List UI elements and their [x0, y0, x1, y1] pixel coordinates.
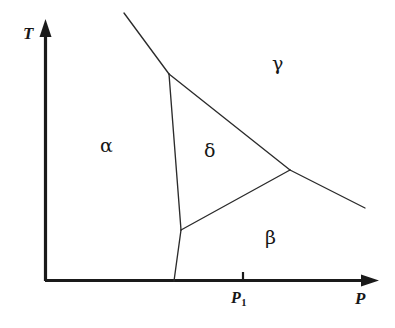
- temperature-axis-arrowhead: [40, 19, 52, 37]
- temperature-axis-label: T: [23, 25, 33, 42]
- pressure-axis-label: P: [355, 290, 365, 307]
- phase-label-alpha: α: [100, 136, 113, 155]
- phase-diagram-figure: T P P1 α δ γ β: [0, 0, 395, 328]
- phase-label-delta: δ: [204, 141, 215, 160]
- p1-tick-label-subscript: 1: [241, 297, 246, 308]
- phase-diagram-canvas: [0, 0, 395, 328]
- gamma-delta-boundary-line: [169, 74, 290, 170]
- phase-label-beta: β: [265, 228, 276, 247]
- pressure-axis-arrowhead: [361, 275, 379, 287]
- gamma-beta-boundary-line: [290, 170, 365, 208]
- p1-tick-label: P1: [231, 290, 246, 306]
- phase-label-gamma: γ: [272, 54, 283, 73]
- alpha-beta-boundary-line: [174, 230, 181, 281]
- alpha-gamma-boundary-line: [124, 13, 169, 74]
- p1-tick-label-base: P: [231, 289, 241, 306]
- alpha-delta-boundary-line: [169, 74, 181, 230]
- delta-beta-boundary-line: [181, 170, 290, 230]
